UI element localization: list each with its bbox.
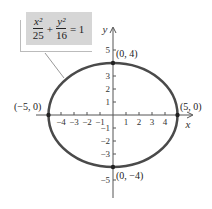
y-tick-label: 5 [106, 45, 111, 55]
x-tick-label: 3 [150, 117, 155, 127]
point-top-label: (0, 4) [116, 48, 138, 60]
formula-connector-line [45, 53, 64, 78]
equation-box: x² 25 + y² 16 = 1 [26, 12, 92, 45]
formula-frame-bottom [20, 51, 92, 52]
x-term-denominator: 25 [33, 29, 44, 41]
y-tick-label: −1 [100, 123, 110, 133]
point-left-label: (−5, 0) [14, 101, 41, 113]
y-axis-label: y [102, 23, 108, 35]
point-right-label: (5, 0) [180, 101, 202, 113]
y-tick-label: 2 [106, 84, 111, 94]
y-term-denominator: 16 [56, 29, 67, 41]
y-tick-label: −3 [100, 149, 110, 159]
point-bottom-label: (0, −4) [116, 170, 143, 182]
x-tick-label: −4 [56, 117, 66, 127]
x-term-numerator: x² [33, 16, 43, 29]
y-term-numerator: y² [56, 16, 66, 29]
point-bottom [111, 165, 115, 169]
point-left [46, 113, 50, 117]
x-tick-label: 2 [137, 117, 142, 127]
equals-one: = 1 [70, 23, 84, 35]
x-term-fraction: x² 25 [33, 16, 44, 41]
x-tick-label: −3 [69, 117, 79, 127]
point-top [111, 61, 115, 65]
x-axis-label: x [185, 118, 191, 130]
y-tick-label: 1 [106, 97, 111, 107]
x-tick-label: 4 [163, 117, 168, 127]
plus-sign: + [47, 23, 53, 35]
y-term-fraction: y² 16 [56, 16, 67, 41]
formula-frame-left [20, 20, 21, 52]
x-tick-label: −2 [82, 117, 92, 127]
y-tick-label: −5 [100, 175, 110, 185]
point-right [175, 113, 179, 117]
y-tick-label: 3 [106, 71, 111, 81]
y-tick-label: −2 [100, 136, 110, 146]
x-tick-label: 1 [124, 117, 129, 127]
